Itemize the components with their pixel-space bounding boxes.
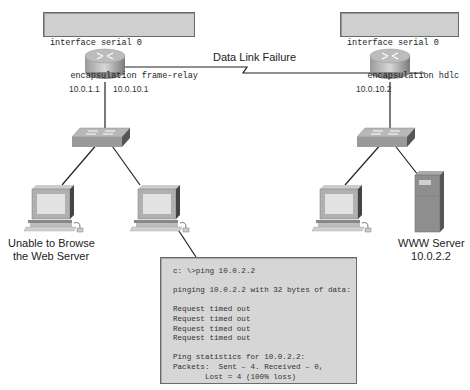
ping-start-line: pinging 10.0.2.2 with 32 bytes of data: — [173, 286, 356, 296]
left-router-config: interface serial 0 encapsulation frame-r… — [43, 12, 195, 37]
ping-reply-line: Request timed out — [173, 334, 356, 344]
switch-left-icon — [72, 128, 130, 147]
ping-reply-line: Request timed out — [173, 315, 356, 325]
pc-ping-source-icon — [130, 185, 189, 232]
pc-right-icon — [312, 185, 371, 232]
ping-command: c: \>ping 10.0.2.2 — [173, 267, 356, 277]
config-line: interface serial 0 — [347, 38, 452, 49]
ping-stats-loss: Lost = 4 (100% loss) — [173, 373, 356, 383]
pc-left-icon — [24, 185, 83, 232]
config-line: encapsulation hdlc — [347, 71, 452, 82]
right-router-wan-ip: 10.0.10.2 — [356, 84, 391, 94]
switch-right-icon — [357, 128, 415, 147]
ping-stats-packets: Packets: Sent – 4. Received – 0, — [173, 363, 356, 373]
unreachable-host-label: Unable to Browse the Web Server — [8, 237, 94, 263]
web-server-label: WWW Server 10.0.2.2 — [398, 237, 464, 263]
config-line: interface serial 0 — [50, 38, 188, 49]
left-router-wan-ip: 10.0.10.1 — [113, 84, 148, 94]
ping-output-terminal: c: \>ping 10.0.2.2 pinging 10.0.2.2 with… — [160, 257, 357, 384]
config-line: encapsulation frame-relay — [50, 71, 188, 82]
left-router-lan-ip: 10.0.1.1 — [69, 84, 100, 94]
right-router-config: interface serial 0 encapsulation hdlc — [340, 12, 459, 37]
ping-reply-line: Request timed out — [173, 305, 356, 315]
ping-stats-header: Ping statistics for 10.0.2.2: — [173, 353, 356, 363]
web-server-icon — [415, 171, 444, 232]
ping-reply-line: Request timed out — [173, 325, 356, 335]
link-failure-label: Data Link Failure — [213, 51, 296, 64]
